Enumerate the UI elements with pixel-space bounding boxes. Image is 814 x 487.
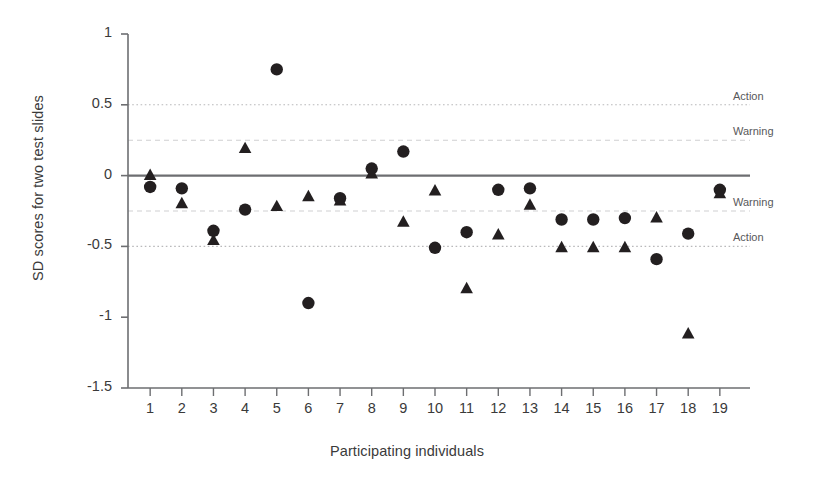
data-point-circle-17 <box>650 253 662 265</box>
reference-label-action-upper: Action <box>733 90 764 102</box>
data-point-triangle-9 <box>397 215 410 226</box>
x-tick-label-2: 3 <box>198 400 228 416</box>
data-point-triangle-10 <box>429 184 442 195</box>
x-tick-label-0: 1 <box>135 400 165 416</box>
x-tick-label-9: 10 <box>420 400 450 416</box>
data-point-triangle-11 <box>460 282 473 293</box>
data-point-circle-15 <box>587 213 599 225</box>
data-point-circle-1 <box>144 181 156 193</box>
data-point-triangle-1 <box>144 169 157 180</box>
data-point-circle-4 <box>239 203 251 215</box>
data-point-circle-16 <box>619 212 631 224</box>
reference-label-warning-lower: Warning <box>733 196 774 208</box>
data-point-circle-11 <box>460 226 472 238</box>
data-point-circle-9 <box>397 145 409 157</box>
x-tick-label-17: 18 <box>673 400 703 416</box>
x-tick-label-16: 17 <box>642 400 672 416</box>
x-tick-label-6: 7 <box>325 400 355 416</box>
data-point-circle-2 <box>176 182 188 194</box>
data-point-triangle-17 <box>650 211 663 222</box>
data-point-circle-14 <box>555 213 567 225</box>
x-tick-label-7: 8 <box>357 400 387 416</box>
data-point-circle-6 <box>302 297 314 309</box>
y-tick-label-5: -1.5 <box>70 378 112 394</box>
data-point-circle-12 <box>492 184 504 196</box>
x-tick-label-18: 19 <box>705 400 735 416</box>
x-tick-label-5: 6 <box>293 400 323 416</box>
data-point-circle-10 <box>429 242 441 254</box>
data-point-triangle-12 <box>492 228 505 239</box>
x-tick-label-14: 15 <box>578 400 608 416</box>
data-point-triangle-4 <box>239 142 252 153</box>
data-point-triangle-3 <box>207 234 220 245</box>
x-tick-label-12: 13 <box>515 400 545 416</box>
x-tick-label-11: 12 <box>483 400 513 416</box>
x-tick-label-10: 11 <box>452 400 482 416</box>
y-tick-label-1: 0.5 <box>70 95 112 111</box>
scatter-chart: SD scores for two test slides Participat… <box>0 0 814 487</box>
data-point-triangle-5 <box>270 200 283 211</box>
x-tick-label-3: 4 <box>230 400 260 416</box>
y-tick-label-3: -0.5 <box>70 236 112 252</box>
data-point-triangle-2 <box>176 197 189 208</box>
reference-label-action-lower: Action <box>733 231 764 243</box>
y-tick-label-4: -1 <box>70 307 112 323</box>
y-tick-label-0: 1 <box>70 24 112 40</box>
x-tick-label-1: 2 <box>167 400 197 416</box>
x-tick-label-4: 5 <box>262 400 292 416</box>
data-point-triangle-13 <box>524 198 537 209</box>
data-point-triangle-15 <box>587 241 600 252</box>
y-tick-label-2: 0 <box>70 166 112 182</box>
x-tick-label-13: 14 <box>547 400 577 416</box>
data-point-circle-13 <box>524 182 536 194</box>
data-point-triangle-6 <box>302 190 315 201</box>
data-point-triangle-18 <box>682 327 695 338</box>
x-tick-label-8: 9 <box>388 400 418 416</box>
reference-label-warning-upper: Warning <box>733 125 774 137</box>
data-point-circle-18 <box>682 227 694 239</box>
data-point-circle-5 <box>271 63 283 75</box>
x-tick-label-15: 16 <box>610 400 640 416</box>
